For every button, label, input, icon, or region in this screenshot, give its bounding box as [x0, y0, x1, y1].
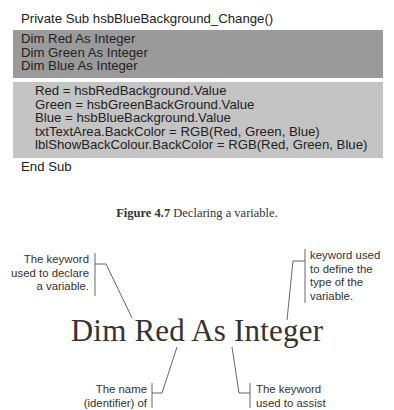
leader-left-bottom — [152, 347, 177, 393]
leader-left-top — [95, 264, 132, 318]
annotation-line: The keyword — [256, 383, 326, 397]
annotation-line: variable. — [310, 290, 380, 304]
annotation-line: (identifier) of — [84, 397, 147, 410]
annotation-line: to define the — [310, 263, 380, 277]
annotation-declare-keyword: The keyword used to declare a variable. — [11, 253, 89, 294]
annotation-as-keyword: The keyword used to assist — [256, 383, 326, 410]
annotation-line: a variable. — [11, 280, 89, 294]
leader-right-bottom — [232, 347, 250, 393]
annotation-line: keyword used — [310, 249, 380, 263]
leader-right-top — [287, 261, 305, 320]
annotation-line: The name — [84, 383, 147, 397]
annotation-type-keyword: keyword used to define the type of the v… — [310, 249, 380, 303]
annotation-line: type of the — [310, 276, 380, 290]
annotation-line: used to declare — [11, 267, 89, 281]
annotation-line: used to assist — [256, 397, 326, 410]
annotation-identifier: The name (identifier) of — [84, 383, 147, 410]
annotation-line: The keyword — [11, 253, 89, 267]
diagram-statement: Dim Red As Integer — [0, 313, 394, 349]
